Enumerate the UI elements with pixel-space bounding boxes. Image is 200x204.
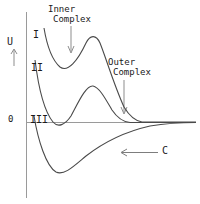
curve-label-II: II xyxy=(31,62,43,74)
origin-label: 0 xyxy=(8,114,13,124)
diagram-canvas xyxy=(0,0,200,204)
x-axis-label: C xyxy=(162,145,168,157)
curve-label-I: I xyxy=(33,29,39,41)
outer-complex-line2: Complex xyxy=(108,67,151,77)
curve-label-III: III xyxy=(30,114,48,126)
outer-complex-annotation: OuterComplex xyxy=(108,57,151,78)
c-axis-arrow-icon xyxy=(121,149,158,156)
outer-complex-arrow-icon xyxy=(121,80,127,114)
curve-III xyxy=(34,116,196,173)
outer-complex-line1: Outer xyxy=(108,57,135,67)
inner-complex-arrow-icon xyxy=(68,26,74,53)
potential-energy-diagram: U 0 C I II III InnerComplex OuterComplex xyxy=(0,0,200,204)
inner-complex-line1: Inner xyxy=(48,4,75,14)
u-axis-arrow-icon xyxy=(11,49,17,66)
inner-complex-line2: Complex xyxy=(48,14,91,24)
y-axis-label: U xyxy=(7,36,13,48)
inner-complex-annotation: InnerComplex xyxy=(48,4,91,25)
